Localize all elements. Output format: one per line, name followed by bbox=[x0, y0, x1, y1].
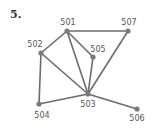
node-label-505: 505 bbox=[90, 45, 105, 54]
node-505 bbox=[90, 54, 95, 59]
node-501 bbox=[64, 28, 69, 33]
graph-edges bbox=[39, 31, 137, 109]
edge-502-504 bbox=[39, 53, 41, 104]
node-label-503: 503 bbox=[80, 100, 95, 109]
node-label-504: 504 bbox=[34, 111, 49, 120]
network-graph: 501502503504505506507 bbox=[0, 0, 154, 129]
node-507 bbox=[125, 28, 130, 33]
node-label-506: 506 bbox=[129, 114, 144, 123]
edge-507-503 bbox=[88, 31, 128, 94]
node-506 bbox=[134, 106, 139, 111]
node-503 bbox=[85, 91, 90, 96]
node-504 bbox=[36, 101, 41, 106]
node-label-501: 501 bbox=[60, 18, 75, 27]
node-label-507: 507 bbox=[121, 18, 136, 27]
node-label-502: 502 bbox=[27, 40, 42, 49]
edge-501-502 bbox=[41, 31, 67, 53]
node-502 bbox=[38, 50, 43, 55]
